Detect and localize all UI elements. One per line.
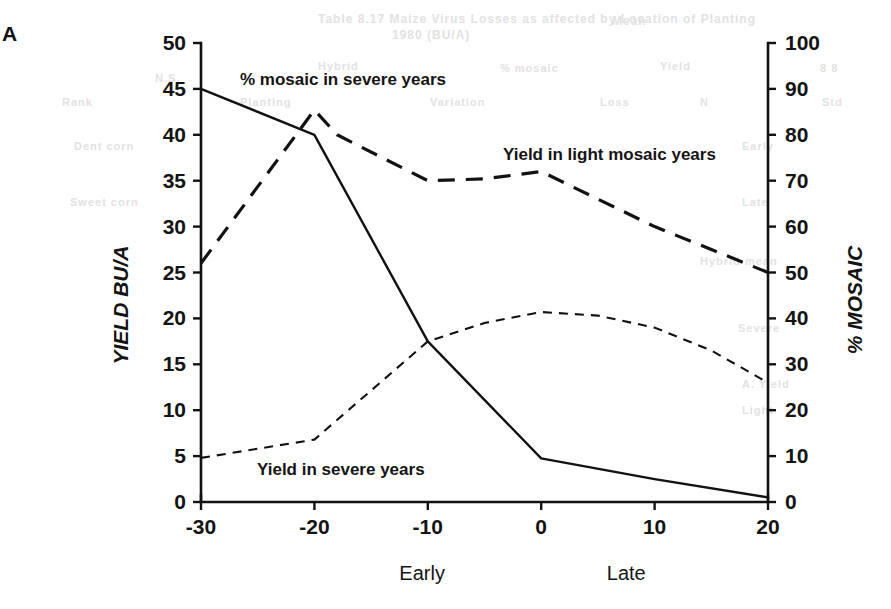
x-axis-sublabel: Late [607, 562, 646, 584]
x-axis-sublabel: Early [399, 562, 445, 584]
series-line [201, 110, 768, 273]
chart-annotations: % mosaic in severe yearsYield in light m… [240, 70, 716, 479]
y2-tick-label: 0 [785, 490, 797, 513]
y-tick-label: 20 [163, 306, 186, 329]
y-tick-label: 45 [163, 77, 187, 100]
series-annotation: Yield in severe years [257, 460, 425, 479]
x-tick-label: -10 [413, 515, 443, 538]
x-axis-sublabels: EarlyLate [399, 562, 645, 584]
y2-tick-label: 100 [785, 31, 820, 54]
y-tick-label: 35 [163, 169, 187, 192]
y2-tick-label: 10 [785, 444, 808, 467]
chart-canvas: -30-20-1001020 05101520253035404550 0102… [0, 0, 891, 609]
y2-axis-tick-labels: 0102030405060708090100 [785, 31, 820, 513]
x-tick-label: 20 [756, 515, 779, 538]
x-axis-tick-labels: -30-20-1001020 [186, 515, 780, 538]
y2-tick-label: 80 [785, 123, 808, 146]
y2-tick-label: 90 [785, 77, 808, 100]
y-tick-label: 0 [174, 490, 186, 513]
series-annotation: Yield in light mosaic years [503, 145, 716, 164]
y2-tick-label: 50 [785, 261, 808, 284]
y-tick-label: 10 [163, 398, 186, 421]
x-tick-label: 0 [535, 515, 547, 538]
x-tick-label: -20 [299, 515, 329, 538]
series-line [201, 312, 768, 458]
y-axis-tick-labels: 05101520253035404550 [163, 31, 187, 513]
y-tick-label: 5 [174, 444, 186, 467]
x-tick-label: 10 [643, 515, 666, 538]
y-tick-label: 30 [163, 215, 186, 238]
y2-axis-title: % MOSAIC [843, 245, 866, 354]
axis-frame [201, 43, 768, 502]
y-tick-label: 50 [163, 31, 186, 54]
chart-figure: -30-20-1001020 05101520253035404550 0102… [0, 0, 891, 609]
y-tick-label: 25 [163, 261, 187, 284]
chart-axes [201, 43, 768, 502]
y-axis-title: YIELD BU/A [109, 245, 132, 364]
chart-axis-titles: YIELD BU/A% MOSAIC [109, 245, 866, 365]
y2-tick-label: 70 [785, 169, 808, 192]
y2-tick-label: 30 [785, 352, 808, 375]
y2-tick-label: 20 [785, 398, 808, 421]
y2-tick-label: 40 [785, 306, 808, 329]
y-tick-label: 15 [163, 352, 187, 375]
series-annotation: % mosaic in severe years [240, 70, 446, 89]
y2-tick-label: 60 [785, 215, 808, 238]
x-tick-label: -30 [186, 515, 216, 538]
y-tick-label: 40 [163, 123, 186, 146]
chart-tickmarks [193, 43, 776, 510]
